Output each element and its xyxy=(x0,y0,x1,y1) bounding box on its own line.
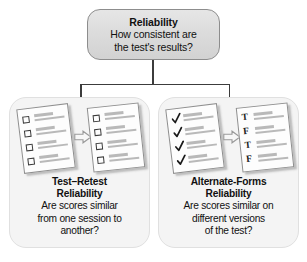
checklist-row: F xyxy=(246,151,289,166)
caption-title-line2: Reliability xyxy=(14,188,145,200)
checklist-row xyxy=(92,109,135,124)
check-icon xyxy=(170,113,181,125)
text-lines xyxy=(106,124,137,137)
text-lines xyxy=(107,138,138,151)
checklist-row xyxy=(95,137,138,152)
checklist-row: T xyxy=(241,109,284,124)
check-icon xyxy=(175,154,186,166)
branch-panel-test-retest: Test–Retest Reliability Are scores simil… xyxy=(9,97,150,248)
text-lines xyxy=(183,111,214,124)
text-lines xyxy=(36,125,67,138)
checkbox-empty-icon xyxy=(26,143,34,151)
text-lines xyxy=(188,152,219,165)
caption-desc-line1: Are scores similar xyxy=(14,200,145,212)
caption-desc-line1: Are scores similar on xyxy=(163,200,294,212)
root-node-question-line2: the test's results? xyxy=(114,41,193,53)
connector-horizontal-bar xyxy=(80,84,230,86)
answer-letter: F xyxy=(243,125,253,137)
checklist-sheet-blank-1 xyxy=(16,103,76,174)
caption-desc-line3: another? xyxy=(14,225,145,237)
caption-desc-line3: of the test? xyxy=(163,225,294,237)
text-lines xyxy=(258,152,289,165)
checklist-sheet-blank-2 xyxy=(87,102,146,172)
checkbox-empty-icon xyxy=(24,129,32,137)
text-lines xyxy=(256,138,287,151)
checkbox-empty-icon xyxy=(95,142,103,150)
root-node-question-line1: How consistent are xyxy=(110,28,197,40)
checklist-row xyxy=(27,151,70,167)
text-lines xyxy=(109,152,140,165)
branch-panel-alternate-forms: T F T F Alternate-Forms Reliability Are … xyxy=(158,97,299,248)
checklist-sheet-checked xyxy=(165,103,225,174)
checklist-row xyxy=(94,123,137,138)
connector-stem xyxy=(152,60,154,85)
checklist-sheet-true-false: T F T F xyxy=(236,102,295,172)
answer-letter: T xyxy=(241,111,251,123)
checklist-row: F xyxy=(243,123,286,138)
artwork-alternate-forms: T F T F xyxy=(159,98,298,176)
checkbox-empty-icon xyxy=(27,157,35,165)
caption-desc-line2: different versions xyxy=(163,213,294,225)
root-node-title: Reliability xyxy=(129,16,178,28)
text-lines xyxy=(255,124,286,137)
caption-title-line1: Test–Retest xyxy=(14,176,145,188)
text-lines xyxy=(185,125,216,138)
checkbox-empty-icon xyxy=(22,115,30,123)
text-lines xyxy=(34,111,65,124)
answer-letter: F xyxy=(246,153,256,165)
check-icon xyxy=(172,127,183,139)
checklist-row xyxy=(176,151,219,167)
text-lines xyxy=(39,152,70,165)
root-node-reliability: Reliability How consistent are the test'… xyxy=(87,9,220,60)
text-lines xyxy=(186,138,217,151)
answer-letter: T xyxy=(244,139,254,151)
caption-alternate-forms: Alternate-Forms Reliability Are scores s… xyxy=(159,176,298,237)
checkbox-empty-icon xyxy=(97,156,105,164)
text-lines xyxy=(37,138,68,151)
text-lines xyxy=(104,110,135,123)
caption-title-line2: Reliability xyxy=(163,188,294,200)
checkbox-empty-icon xyxy=(94,128,102,136)
artwork-test-retest xyxy=(10,98,149,176)
caption-desc-line2: from one session to xyxy=(14,213,145,225)
checklist-row: T xyxy=(244,137,287,152)
text-lines xyxy=(253,110,284,123)
caption-test-retest: Test–Retest Reliability Are scores simil… xyxy=(10,176,149,237)
checklist-row xyxy=(97,151,140,166)
checkbox-empty-icon xyxy=(93,114,101,122)
check-icon xyxy=(174,140,185,152)
caption-title-line1: Alternate-Forms xyxy=(163,176,294,188)
